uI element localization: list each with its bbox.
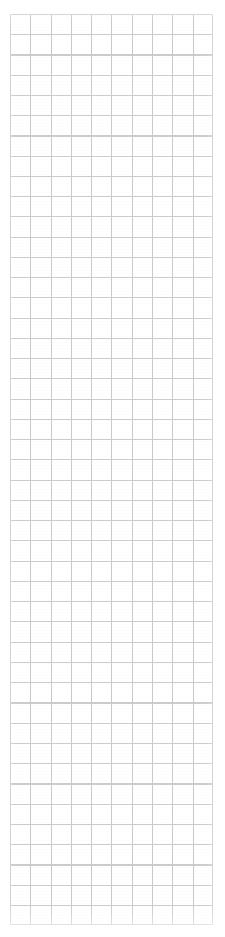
- page-written-content: [10, 14, 11, 15]
- page-content-area: [10, 14, 213, 925]
- grid-paper-page: Blank grid paper page: [0, 0, 225, 937]
